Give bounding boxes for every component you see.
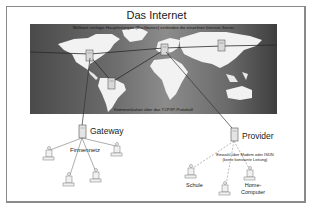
gateway-server-icon	[79, 125, 86, 138]
provider-label: Provider	[242, 131, 274, 141]
client-computer-icon	[43, 147, 54, 161]
school-label: Schule	[186, 182, 203, 188]
client-computer-icon	[63, 173, 74, 187]
client-computer-icon	[219, 182, 230, 196]
home-computer-label-line2: Computer	[241, 189, 265, 196]
dialup-links	[193, 141, 250, 185]
dialup-note: Einwahl über Modem oder ISDN (keine kons…	[205, 152, 285, 162]
home-computer-icon	[244, 167, 255, 181]
home-computer-label-line1: Home-	[241, 182, 265, 189]
firmennetz-label: Firmennetz	[70, 147, 100, 153]
dialup-note-line2: (keine konstante Leitung)	[205, 157, 285, 162]
network-connections	[0, 0, 313, 211]
client-computer-icon	[111, 143, 122, 157]
firmennetz-links	[50, 138, 116, 175]
client-computer-icon	[90, 169, 101, 183]
gateway-label: Gateway	[90, 126, 124, 136]
home-computer-label: Home- Computer	[241, 182, 265, 196]
school-computer-icon	[185, 165, 196, 179]
provider-server-icon	[231, 128, 238, 141]
